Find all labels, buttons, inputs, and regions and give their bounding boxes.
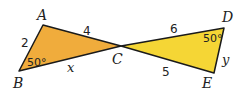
vertex-label-c: C [112,51,123,67]
vertex-label-e: E [201,75,212,91]
side-label-ac: 4 [83,24,91,38]
side-label-ab: 2 [21,36,29,50]
similar-triangles-diagram: A B C D E 2 4 x 50° 6 5 y 50° [0,0,242,93]
vertex-label-a: A [35,7,47,23]
angle-label-b: 50° [27,56,47,69]
side-label-cd: 6 [170,22,178,36]
angle-label-d: 50° [203,32,223,45]
side-label-bc: x [67,60,75,75]
side-label-de: y [221,52,230,67]
side-label-ce: 5 [162,65,170,79]
vertex-label-b: B [12,75,23,91]
vertex-label-d: D [221,9,233,25]
